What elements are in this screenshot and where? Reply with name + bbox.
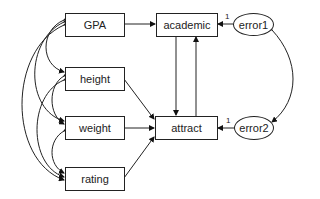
node-error1: error1	[233, 13, 274, 36]
node-height: height	[65, 67, 125, 91]
node-weight: weight	[65, 116, 125, 140]
cov-gpa-weight	[35, 22, 64, 121]
node-error2: error2	[234, 116, 274, 140]
node-attract: attract	[155, 116, 218, 140]
path-height-attract	[124, 79, 154, 119]
cov-height-rating	[37, 80, 64, 177]
node-gpa: GPA	[65, 13, 125, 37]
node-rating: rating	[65, 167, 125, 191]
cov-weight-rating	[52, 131, 64, 173]
cov-error1-error2	[272, 30, 293, 122]
path-rating-attract	[124, 137, 154, 178]
weight-label-error2: 1	[226, 116, 230, 125]
node-academic: academic	[156, 13, 218, 37]
weight-label-error1: 1	[225, 12, 229, 21]
